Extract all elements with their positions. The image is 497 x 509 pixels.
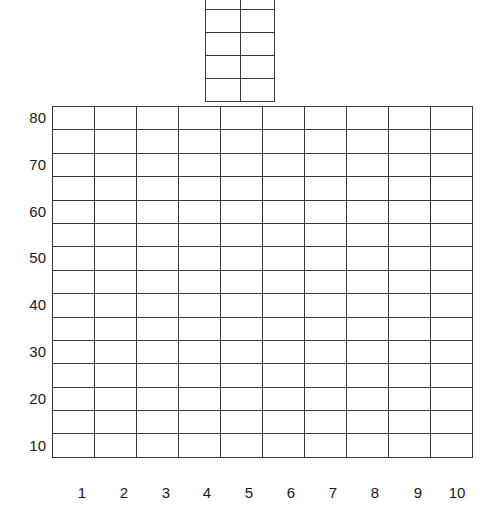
grid-cell	[53, 364, 95, 387]
top-grid-cell	[206, 0, 241, 10]
top-grid-cell	[240, 10, 275, 33]
y-tick-label: 20	[6, 391, 46, 407]
y-tick-label: 60	[6, 204, 46, 220]
grid-cell	[431, 270, 473, 293]
x-tick-label: 6	[276, 485, 306, 501]
top-grid-cell	[240, 0, 275, 10]
grid-cell	[389, 247, 431, 270]
grid-cell	[95, 411, 137, 434]
grid-cell	[431, 434, 473, 457]
grid-cell	[263, 223, 305, 246]
grid-row	[53, 200, 473, 223]
grid-cell	[431, 364, 473, 387]
grid-cell	[179, 270, 221, 293]
grid-cell	[95, 434, 137, 457]
grid-cell	[263, 177, 305, 200]
grid-cell	[95, 340, 137, 363]
grid-cell	[221, 317, 263, 340]
grid-cell	[389, 294, 431, 317]
grid-cell	[347, 364, 389, 387]
x-tick-label: 5	[234, 485, 264, 501]
grid-cell	[221, 270, 263, 293]
top-grid-cell	[240, 56, 275, 79]
top-grid-cell	[206, 33, 241, 56]
grid-cell	[263, 107, 305, 130]
grid-cell	[221, 200, 263, 223]
grid-cell	[431, 340, 473, 363]
grid-cell	[137, 411, 179, 434]
grid-cell	[137, 270, 179, 293]
y-tick-label: 10	[6, 438, 46, 454]
grid-cell	[221, 434, 263, 457]
top-grid-row	[206, 10, 275, 33]
grid-row	[53, 364, 473, 387]
grid-row	[53, 107, 473, 130]
grid-cell	[53, 411, 95, 434]
grid-cell	[347, 223, 389, 246]
y-tick-label: 80	[6, 110, 46, 126]
grid-cell	[263, 317, 305, 340]
x-tick-label: 7	[318, 485, 348, 501]
grid-cell	[179, 364, 221, 387]
grid-cell	[95, 247, 137, 270]
top-grid-row	[206, 33, 275, 56]
grid-cell	[179, 130, 221, 153]
top-grid-cell	[240, 33, 275, 56]
x-tick-label: 9	[403, 485, 433, 501]
grid-cell	[221, 387, 263, 410]
grid-cell	[137, 177, 179, 200]
grid-cell	[137, 223, 179, 246]
grid-cell	[53, 270, 95, 293]
grid-cell	[347, 130, 389, 153]
grid-cell	[431, 177, 473, 200]
x-tick-label: 8	[360, 485, 390, 501]
grid-cell	[263, 434, 305, 457]
grid-cell	[95, 107, 137, 130]
grid-cell	[137, 364, 179, 387]
grid-cell	[53, 200, 95, 223]
grid-cell	[221, 340, 263, 363]
x-tick-label: 3	[151, 485, 181, 501]
grid-cell	[305, 270, 347, 293]
grid-cell	[389, 177, 431, 200]
grid-cell	[389, 340, 431, 363]
grid-cell	[95, 200, 137, 223]
grid-cell	[347, 434, 389, 457]
grid-cell	[179, 340, 221, 363]
grid-cell	[53, 107, 95, 130]
x-tick-label: 4	[192, 485, 222, 501]
grid-cell	[53, 317, 95, 340]
grid-row	[53, 247, 473, 270]
top-grid-row	[206, 0, 275, 10]
grid-cell	[431, 107, 473, 130]
grid-cell	[389, 107, 431, 130]
grid-cell	[263, 130, 305, 153]
grid-cell	[137, 130, 179, 153]
grid-cell	[137, 153, 179, 176]
grid-cell	[179, 153, 221, 176]
grid-cell	[431, 223, 473, 246]
grid-cell	[305, 411, 347, 434]
grid-cell	[305, 153, 347, 176]
grid-cell	[431, 200, 473, 223]
grid-cell	[221, 364, 263, 387]
grid-cell	[305, 247, 347, 270]
grid-cell	[179, 317, 221, 340]
grid-cell	[221, 130, 263, 153]
y-tick-label: 40	[6, 297, 46, 313]
top-grid-cell	[206, 79, 241, 102]
grid-cell	[53, 340, 95, 363]
grid-cell	[431, 317, 473, 340]
grid-cell	[95, 153, 137, 176]
grid-cell	[95, 270, 137, 293]
main-blank-grid	[52, 106, 473, 458]
grid-cell	[263, 294, 305, 317]
top-grid-row	[206, 56, 275, 79]
grid-cell	[179, 434, 221, 457]
grid-cell	[263, 411, 305, 434]
grid-cell	[221, 223, 263, 246]
y-tick-label: 30	[6, 344, 46, 360]
grid-cell	[431, 294, 473, 317]
x-tick-label: 2	[109, 485, 139, 501]
grid-cell	[179, 177, 221, 200]
